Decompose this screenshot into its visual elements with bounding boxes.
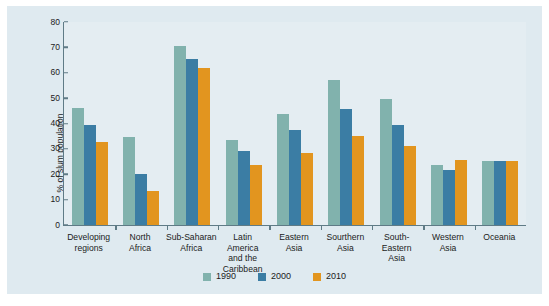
y-axis-tick-label: 60 (51, 69, 64, 78)
legend-item[interactable]: 1990 (203, 272, 236, 281)
y-axis-tick: 20 (51, 170, 64, 179)
y-axis-tick-label: 70 (51, 43, 64, 52)
legend-item[interactable]: 2000 (258, 272, 291, 281)
x-axis-category-label: NorthAfrica (114, 232, 165, 253)
chart-legend: 199020002010 (0, 272, 549, 281)
legend-item-label: 2010 (326, 272, 346, 281)
x-axis-tick-mark (475, 225, 476, 230)
legend-swatch-icon (313, 273, 321, 281)
y-axis-tick: 30 (51, 145, 64, 154)
legend-item-label: 1990 (216, 272, 236, 281)
y-axis-tick: 70 (51, 43, 64, 52)
y-axis-tick-label: 80 (51, 18, 64, 27)
chart-figure: % of slum population 01020304050607080 D… (0, 0, 549, 306)
y-axis-tick: 60 (51, 69, 64, 78)
x-axis-category-label: EasternAsia (268, 232, 319, 253)
legend-item-label: 2000 (271, 272, 291, 281)
x-axis-category-label: Oceania (474, 232, 525, 243)
plot-area: 01020304050607080 (63, 22, 526, 226)
x-axis-category-label: Sub-SaharanAfrica (166, 232, 217, 253)
y-axis-tick: 80 (51, 18, 64, 27)
y-axis-tick-label: 30 (51, 145, 64, 154)
x-axis-tick-mark (218, 225, 219, 230)
y-axis-tick: 0 (55, 221, 64, 230)
y-axis-tick: 50 (51, 94, 64, 103)
x-axis-category-label: WesternAsia (422, 232, 473, 253)
y-axis-tick: 10 (51, 195, 64, 204)
x-axis-category-label: South-EasternAsia (371, 232, 422, 264)
y-axis-tick-label: 0 (55, 221, 64, 230)
x-axis-ticks (64, 22, 526, 225)
x-axis-tick-mark (115, 225, 116, 230)
y-axis-tick-label: 10 (51, 195, 64, 204)
x-axis-category-label: Latin Americaand theCaribbean (217, 232, 268, 274)
x-axis-tick-mark (372, 225, 373, 230)
x-axis-tick-mark (167, 225, 168, 230)
y-axis-tick-label: 40 (51, 119, 64, 128)
x-axis-category-label: SourthernAsia (320, 232, 371, 253)
x-axis-category-label: Developingregions (63, 232, 114, 253)
y-axis-tick-label: 50 (51, 94, 64, 103)
x-axis-tick-mark (423, 225, 424, 230)
legend-item[interactable]: 2010 (313, 272, 346, 281)
legend-swatch-icon (203, 273, 211, 281)
y-axis-tick-label: 20 (51, 170, 64, 179)
legend-swatch-icon (258, 273, 266, 281)
x-axis-tick-mark (269, 225, 270, 230)
y-axis-tick: 40 (51, 119, 64, 128)
x-axis-tick-mark (321, 225, 322, 230)
